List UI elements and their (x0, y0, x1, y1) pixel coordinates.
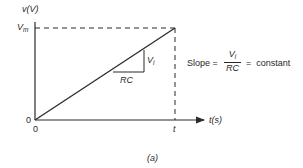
origin-y-label: 0 (26, 116, 31, 125)
vm-sub: m (23, 26, 28, 33)
rc-label: RC (120, 76, 133, 85)
x-axis-unit: (s) (212, 115, 223, 125)
fraction-numerator: Vi (229, 50, 236, 61)
y-axis-label: v(V) (22, 5, 39, 14)
numerator-sub: i (235, 53, 236, 60)
figure-caption: (a) (147, 154, 158, 163)
slope-equation-rhs: = constant (246, 59, 290, 68)
origin-x-label: 0 (33, 125, 38, 134)
t-tick-label: t (173, 125, 176, 134)
vm-label: Vm (17, 23, 28, 34)
fraction-denominator: RC (226, 64, 239, 73)
slope-fraction: Vi RC (224, 50, 241, 73)
slope-triangle (113, 50, 144, 72)
y-axis-unit: (V) (27, 4, 39, 14)
ramp-voltage-diagram (0, 0, 303, 168)
slope-equation-lhs: Slope = (187, 59, 218, 68)
vi-label: Vi (147, 56, 154, 67)
ramp-line (35, 28, 175, 120)
vi-sub: i (153, 59, 154, 66)
x-axis-label: t(s) (209, 116, 222, 125)
